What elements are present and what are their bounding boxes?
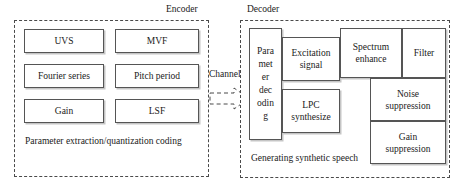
encoder-box-pitch-period-label: Pitch period: [118, 70, 196, 82]
decoder-box-parameter-decoding-label: Para met er dec odin g: [252, 45, 279, 123]
encoder-box-gain-label: Gain: [27, 105, 101, 117]
decoder-box-filter[interactable]: Filter: [402, 28, 446, 78]
encoder-group-label: Encoder: [166, 4, 198, 15]
encoder-box-uvs-label: UVS: [27, 35, 101, 47]
decoder-box-lpc-synthesize-label: LPC synthesize: [285, 99, 337, 123]
decoder-box-gain-suppression[interactable]: Gain suppression: [370, 121, 446, 164]
encoder-box-fourier-series[interactable]: Fourier series: [24, 64, 104, 88]
encoder-box-pitch-period[interactable]: Pitch period: [115, 64, 199, 88]
decoder-box-noise-suppression[interactable]: Noise suppression: [370, 78, 446, 121]
channel-label: Channel: [209, 69, 241, 80]
speech-codec-block-diagram: Encoder UVS MVF Fourier series Pitch per…: [0, 0, 459, 191]
encoder-caption: Parameter extraction/quantization coding: [25, 135, 182, 147]
encoder-box-uvs[interactable]: UVS: [24, 29, 104, 53]
decoder-box-spectrum-enhance-label: Spectrum enhance: [343, 41, 399, 65]
decoder-box-excitation-signal-label: Excitation signal: [285, 47, 337, 71]
encoder-box-mvf[interactable]: MVF: [115, 29, 199, 53]
encoder-box-lsf-label: LSF: [118, 105, 196, 117]
encoder-box-gain[interactable]: Gain: [24, 99, 104, 123]
decoder-box-noise-suppression-label: Noise suppression: [373, 88, 443, 112]
encoder-box-fourier-series-label: Fourier series: [27, 70, 101, 82]
decoder-group-label: Decoder: [247, 4, 279, 15]
decoder-caption: Generating synthetic speech: [251, 152, 358, 164]
decoder-box-spectrum-enhance[interactable]: Spectrum enhance: [340, 28, 402, 78]
decoder-box-excitation-signal[interactable]: Excitation signal: [282, 37, 340, 81]
encoder-box-lsf[interactable]: LSF: [115, 99, 199, 123]
encoder-box-mvf-label: MVF: [118, 35, 196, 47]
decoder-box-gain-suppression-label: Gain suppression: [373, 131, 443, 155]
decoder-box-parameter-decoding[interactable]: Para met er dec odin g: [249, 28, 282, 140]
decoder-box-filter-label: Filter: [405, 47, 443, 59]
decoder-box-lpc-synthesize[interactable]: LPC synthesize: [282, 89, 340, 133]
